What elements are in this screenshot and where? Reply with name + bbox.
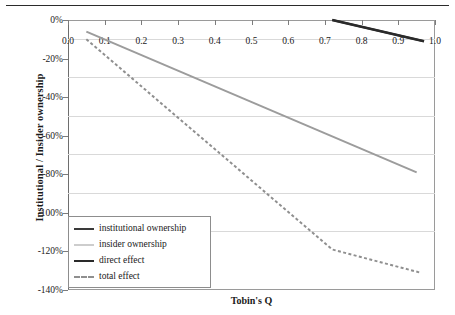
chart-legend: institutional ownership insider ownershi… <box>68 216 211 288</box>
legend-swatch-icon <box>74 272 94 282</box>
series-line-insider-ownership <box>86 32 416 173</box>
legend-item-direct-effect: direct effect <box>74 253 205 269</box>
y-tick-label: 0% <box>3 15 63 25</box>
legend-item-label: insider ownership <box>99 240 167 250</box>
header-rule <box>6 5 449 6</box>
y-tick-label: -120% <box>3 246 63 256</box>
y-tick-label: -140% <box>3 285 63 295</box>
series-line-direct-effect <box>332 20 424 41</box>
y-tick-label: -40% <box>3 92 63 102</box>
legend-swatch-icon <box>74 256 94 266</box>
y-tick-label: -60% <box>3 131 63 141</box>
y-tick-label: -100% <box>3 208 63 218</box>
y-tick-label: -80% <box>3 169 63 179</box>
y-tick-mark <box>63 290 68 291</box>
legend-swatch-icon <box>74 240 94 250</box>
y-tick-label: -20% <box>3 54 63 64</box>
legend-item-institutional-ownership: institutional ownership <box>74 221 205 237</box>
legend-item-label: direct effect <box>99 256 144 266</box>
legend-swatch-icon <box>74 224 94 234</box>
x-tick-mark <box>435 20 436 25</box>
legend-item-label: total effect <box>99 272 140 282</box>
x-axis-title: Tobin's Q <box>68 295 435 306</box>
chart-figure: Institutional / Insider ownership 0%-20%… <box>0 0 455 315</box>
y-axis-title: Institutional / Insider ownership <box>34 33 45 263</box>
legend-item-insider-ownership: insider ownership <box>74 237 205 253</box>
legend-item-label: institutional ownership <box>99 224 186 234</box>
legend-item-total-effect: total effect <box>74 269 205 285</box>
